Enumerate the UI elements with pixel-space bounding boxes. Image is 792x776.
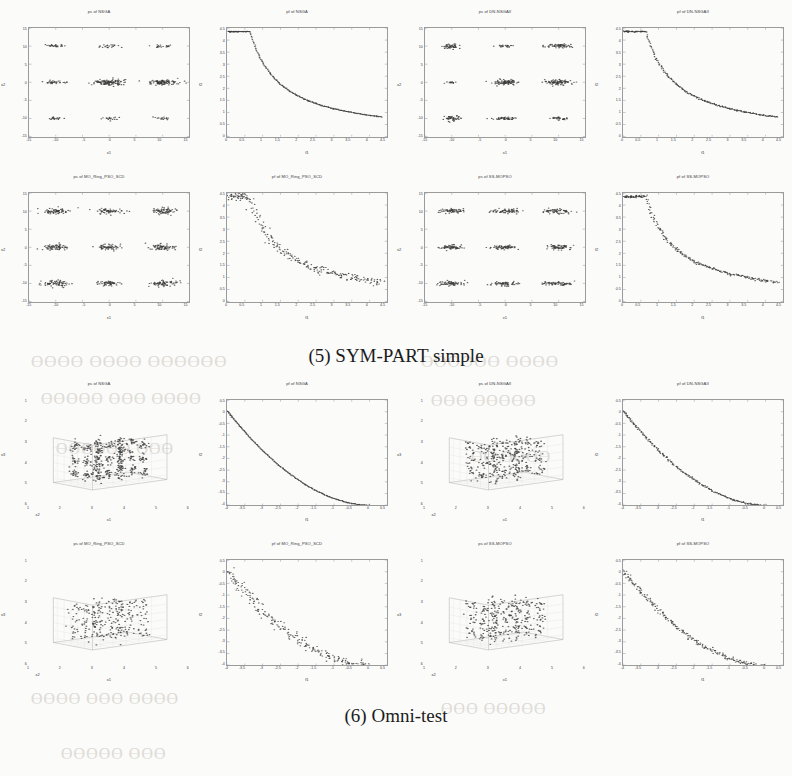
y-tick-label: 0.5	[220, 399, 225, 403]
x-tick-label: -10	[53, 303, 58, 310]
y-axis-label: x2	[397, 247, 401, 252]
plot-title: ps of SS-MOPSO	[396, 174, 594, 179]
x-tick-label: 5	[155, 506, 157, 513]
y-tick-label: 0	[223, 570, 225, 574]
y-axis-label: x3	[397, 452, 401, 457]
plot-frame	[622, 559, 784, 666]
plot-title: ps of MO_Ring_PSO_SCD	[0, 541, 198, 546]
y-tick-label: 2.5	[616, 75, 621, 79]
plot-title: pf of DN-NSGAII	[594, 9, 792, 14]
y-tick-label: 1	[619, 275, 621, 279]
x-tick-label: -3.5	[239, 506, 245, 513]
y-tick-label: 10	[23, 210, 27, 214]
plot-cell: pf of SS-MOPSO0.50-0.5-1-1.5-2-2.5-3-3.5…	[594, 538, 792, 698]
y-tick-label: 15	[23, 192, 27, 196]
y-tick-label: 5	[421, 481, 423, 485]
x-tick-label: 6	[187, 506, 189, 513]
y-tick-label: 0	[223, 410, 225, 414]
y-axis-label: f2	[199, 612, 202, 617]
x-tick-label: 4	[762, 303, 764, 310]
subfigure-sym-part-simple: ps of NSGA151050-5-10-15-15-10-5051015x1…	[0, 6, 792, 336]
y-tick-label: 2	[619, 252, 621, 256]
x-tick-label: -4	[621, 666, 624, 673]
y-tick-label: -0.5	[615, 582, 621, 586]
y-tick-label: -2	[222, 616, 225, 620]
x-tick-label: 4	[366, 138, 368, 145]
x-tick-label: -1.5	[310, 666, 316, 673]
x-axis-label: f1	[226, 315, 388, 320]
x-tick-label: 4	[123, 506, 125, 513]
x-tick-label: -1	[331, 666, 334, 673]
plot-frame	[622, 399, 784, 506]
x-tick-label: -1.5	[706, 666, 712, 673]
y-tick-label: 4	[223, 204, 225, 208]
x-tick-label: 0	[109, 303, 111, 310]
x-tick-label: 6	[583, 666, 585, 673]
x-tick-label: -0.5	[742, 666, 748, 673]
x-tick-label: 0.5	[776, 506, 781, 513]
x-tick-label: 3	[331, 138, 333, 145]
x-tick-label: -1.5	[706, 506, 712, 513]
y-tick-label: 2	[223, 252, 225, 256]
x-tick-label: -3.5	[635, 666, 641, 673]
x-axis-ticks: 00.511.522.533.544.5	[226, 138, 388, 145]
y-tick-label: -2	[618, 616, 621, 620]
x-tick-label: 3	[487, 666, 489, 673]
y-axis-label: f2	[595, 82, 598, 87]
x-tick-label: -2.5	[274, 506, 280, 513]
y-tick-label: 5	[25, 228, 27, 232]
y-tick-label: 2.5	[616, 240, 621, 244]
x-tick-label: 1	[656, 303, 658, 310]
x-axis-label: x1	[28, 677, 190, 682]
plot-cell: ps of DN-NSGAII123456123456x1x3x2	[396, 378, 594, 538]
plot-frame	[424, 27, 586, 138]
plot-cell: pf of MO_Ring_PSO_SCD4.543.532.521.510.5…	[198, 171, 396, 336]
x-tick-label: 1	[656, 138, 658, 145]
x-tick-label: 3.5	[345, 303, 350, 310]
x-axis-ticks: -4-3.5-3-2.5-2-1.5-1-0.500.5	[226, 506, 388, 513]
x-tick-label: -0.5	[346, 506, 352, 513]
plot-canvas	[623, 28, 783, 137]
x-tick-label: -5	[478, 138, 481, 145]
plot-frame	[28, 559, 190, 666]
x-tick-label: 3	[91, 506, 93, 513]
y-tick-label: -2.5	[219, 468, 225, 472]
plot-title: ps of SS-MOPSO	[396, 541, 594, 546]
y-tick-label: -5	[420, 98, 423, 102]
x-axis-ticks: -4-3.5-3-2.5-2-1.5-1-0.500.5	[622, 666, 784, 673]
plot-cell: ps of SS-MOPSO151050-5-10-15-15-10-50510…	[396, 171, 594, 336]
x-tick-label: 1.5	[275, 303, 280, 310]
plot-frame	[424, 399, 586, 506]
y-tick-label: 0	[421, 246, 423, 250]
y-tick-label: 3.5	[220, 51, 225, 55]
x-tick-label: 2.5	[706, 138, 711, 145]
x-axis-ticks: -4-3.5-3-2.5-2-1.5-1-0.500.5	[226, 666, 388, 673]
plot-canvas	[424, 559, 586, 666]
y-tick-label: 3	[223, 228, 225, 232]
plot-title: ps of DN-NSGAII	[396, 9, 594, 14]
x-tick-label: 0	[367, 666, 369, 673]
plot-frame	[226, 192, 388, 303]
y-axis-ticks: 123456	[11, 399, 27, 506]
x-tick-label: 3	[91, 666, 93, 673]
y-tick-label: 1.5	[616, 98, 621, 102]
y-axis-label: x3	[1, 612, 5, 617]
plot-frame	[424, 559, 586, 666]
x-tick-label: 4	[519, 506, 521, 513]
secondary-axis-label: x2	[12, 512, 63, 517]
y-tick-label: 4	[25, 461, 27, 465]
x-tick-label: 15	[184, 303, 188, 310]
y-tick-label: -3.5	[615, 490, 621, 494]
y-tick-label: 0.5	[220, 287, 225, 291]
x-tick-label: 1.5	[671, 138, 676, 145]
x-tick-label: 0.5	[635, 303, 640, 310]
y-tick-label: 1	[421, 559, 423, 563]
x-tick-label: -15	[422, 303, 427, 310]
x-axis-label: x1	[424, 677, 586, 682]
x-tick-label: 0.5	[239, 303, 244, 310]
y-axis-ticks: 123456	[407, 399, 423, 506]
y-tick-label: 0.5	[616, 559, 621, 563]
x-tick-label: 5	[529, 138, 531, 145]
y-tick-label: 4.5	[616, 27, 621, 31]
y-tick-label: 4.5	[220, 27, 225, 31]
